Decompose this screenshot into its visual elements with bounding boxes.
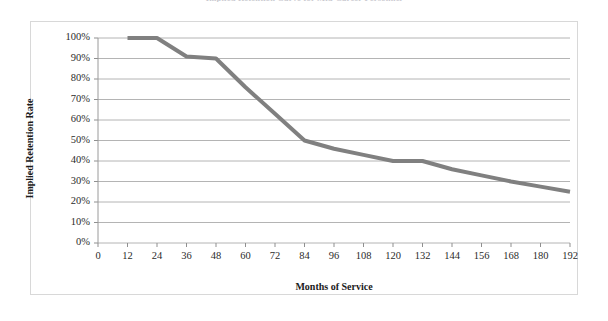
x-tick-label: 156 <box>467 250 497 261</box>
x-tick-label: 144 <box>437 250 467 261</box>
x-tick-label: 84 <box>290 250 320 261</box>
chart-title: Implied Retention Curve for Mid-Career P… <box>0 0 608 2</box>
y-tick-label: 70% <box>46 93 90 104</box>
x-tick-label: 180 <box>526 250 556 261</box>
x-tick-label: 108 <box>349 250 379 261</box>
y-tick-label: 50% <box>46 134 90 145</box>
y-tick-label: 60% <box>46 113 90 124</box>
x-tick-label: 36 <box>172 250 202 261</box>
x-axis-title: Months of Service <box>98 281 570 292</box>
y-tick-label: 0% <box>46 236 90 247</box>
x-tick-label: 0 <box>83 250 113 261</box>
x-tick-label: 120 <box>378 250 408 261</box>
y-tick-label: 10% <box>46 216 90 227</box>
x-tick-label: 132 <box>408 250 438 261</box>
x-tick-label: 168 <box>496 250 526 261</box>
y-tick-label: 40% <box>46 154 90 165</box>
y-tick-label: 30% <box>46 175 90 186</box>
y-tick-label: 100% <box>46 31 90 42</box>
y-axis-title: Implied Retention Rate <box>24 74 35 224</box>
x-tick-label: 60 <box>231 250 261 261</box>
x-tick-label: 24 <box>142 250 172 261</box>
x-tick-label: 96 <box>319 250 349 261</box>
x-tick-label: 72 <box>260 250 290 261</box>
chart-figure: Implied Retention Curve for Mid-Career P… <box>0 0 608 321</box>
y-tick-label: 20% <box>46 195 90 206</box>
y-tick-label: 90% <box>46 52 90 63</box>
x-tick-label: 48 <box>201 250 231 261</box>
y-tick-label: 80% <box>46 72 90 83</box>
x-tick-label: 192 <box>555 250 585 261</box>
x-tick-label: 12 <box>113 250 143 261</box>
